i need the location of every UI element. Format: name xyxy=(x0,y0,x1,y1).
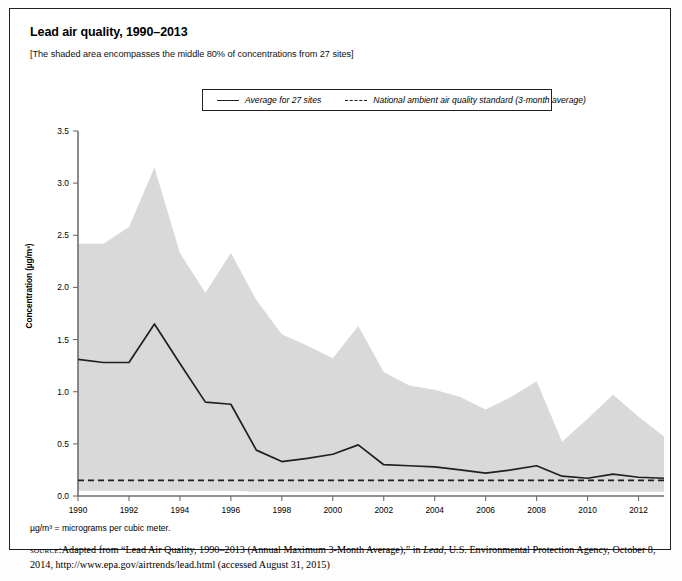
x-axis-tick-label: 2000 xyxy=(323,505,342,515)
x-axis-tick-label: 2006 xyxy=(476,505,495,515)
figure-subhead: [The shaded area encompasses the middle … xyxy=(30,49,354,59)
y-axis-tick-label: 2.5 xyxy=(57,230,69,240)
y-axis-title: Concentration (µg/m³) xyxy=(24,211,34,361)
x-axis-tick-label: 1996 xyxy=(222,505,241,515)
x-axis-tick-label: 2012 xyxy=(629,505,648,515)
x-axis-tick-label: 2002 xyxy=(374,505,393,515)
source-text-part1: Adapted from “Lead Air Quality, 1990–201… xyxy=(62,544,424,555)
y-axis-tick-label: 1.5 xyxy=(57,335,69,345)
concentration-band-area xyxy=(78,168,664,492)
legend-item-standard: National ambient air quality standard (3… xyxy=(345,95,586,105)
units-footnote: µg/m³ = micrograms per cubic meter. xyxy=(30,523,170,533)
legend-label-standard: National ambient air quality standard (3… xyxy=(373,95,586,105)
figure-frame: Lead air quality, 1990–2013 [The shaded … xyxy=(9,8,671,550)
y-axis-tick-label: 0.0 xyxy=(57,491,69,501)
chart-plot-area: Concentration (µg/m³) 0.00.51.01.52.02.5… xyxy=(30,117,670,517)
y-axis-tick-label: 0.5 xyxy=(57,439,69,449)
legend-label-average: Average for 27 sites xyxy=(245,95,321,105)
dashed-line-icon xyxy=(345,100,367,101)
lead-air-quality-chart: 0.00.51.01.52.02.53.03.51990199219941996… xyxy=(30,117,670,517)
x-axis-tick-label: 1998 xyxy=(273,505,292,515)
y-axis-tick-label: 3.0 xyxy=(57,178,69,188)
y-axis-tick-label: 3.5 xyxy=(57,126,69,136)
x-axis-tick-label: 2008 xyxy=(527,505,546,515)
solid-line-icon xyxy=(217,100,239,101)
x-axis-tick-label: 1990 xyxy=(69,505,88,515)
x-axis-tick-label: 1994 xyxy=(171,505,190,515)
x-axis-tick-label: 2004 xyxy=(425,505,444,515)
source-publication-name: Lead xyxy=(423,544,443,555)
source-text-part2: , U.S. Environmental Protection Agency, xyxy=(444,544,610,555)
y-axis-tick-label: 2.0 xyxy=(57,282,69,292)
figure-page: Lead air quality, 1990–2013 [The shaded … xyxy=(0,0,682,581)
source-note: source:Adapted from “Lead Air Quality, 1… xyxy=(30,543,658,572)
legend-item-average: Average for 27 sites xyxy=(217,95,321,105)
x-axis-tick-label: 1992 xyxy=(120,505,139,515)
source-label: source: xyxy=(30,544,62,555)
page-title: Lead air quality, 1990–2013 xyxy=(30,25,188,39)
x-axis-tick-label: 2010 xyxy=(578,505,597,515)
y-axis-tick-label: 1.0 xyxy=(57,387,69,397)
chart-legend: Average for 27 sites National ambient ai… xyxy=(202,89,552,111)
